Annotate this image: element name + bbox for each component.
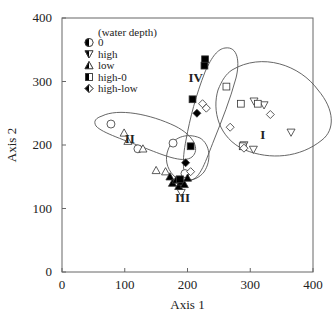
triangle-up-data-point: [152, 166, 160, 173]
triangle-down-data-point: [287, 129, 295, 136]
y-axis-title: Axis 2: [4, 128, 19, 162]
diamond-data-point: [226, 123, 234, 131]
legend-label: 0: [98, 36, 104, 48]
legend-item: high-low: [85, 82, 138, 94]
legend-label: high-low: [98, 82, 138, 94]
square-data-point: [177, 176, 184, 183]
legend-title: (water depth): [98, 26, 157, 39]
group-label-II: II: [125, 131, 135, 146]
x-tick-label: 200: [178, 277, 198, 292]
legend-item: low: [85, 59, 115, 71]
square-data-point: [201, 62, 208, 69]
circle-data-point: [169, 139, 177, 147]
legend-label: high-0: [98, 71, 127, 83]
x-axis-title: Axis 1: [170, 297, 204, 312]
x-tick-label: 300: [241, 277, 261, 292]
circle-data-point: [107, 120, 115, 128]
group-label-IV: IV: [188, 70, 203, 85]
diamond-data-point: [182, 159, 190, 167]
square-data-point: [202, 56, 209, 63]
square-data-point: [187, 143, 194, 150]
y-tick-label: 400: [33, 10, 53, 25]
y-tick-label: 300: [33, 74, 53, 89]
diamond-data-point: [266, 111, 274, 119]
y-tick-label: 0: [46, 264, 53, 279]
group-I-outline: [216, 62, 331, 156]
legend-label: low: [98, 59, 115, 71]
square-data-point: [254, 100, 261, 107]
diamond-data-point: [193, 109, 201, 117]
y-tick-label: 200: [33, 137, 53, 152]
x-tick-label: 400: [303, 277, 323, 292]
legend-item: 0: [85, 36, 104, 48]
legend-label: high: [98, 48, 118, 60]
square-data-point: [237, 100, 244, 107]
legend-item: high: [85, 48, 118, 60]
y-tick-label: 100: [33, 201, 53, 216]
square-data-point: [223, 83, 230, 90]
square-data-point: [189, 96, 196, 103]
group-label-III: III: [175, 190, 190, 205]
x-tick-label: 100: [115, 277, 135, 292]
x-tick-label: 0: [59, 277, 66, 292]
legend-item: high-0: [86, 71, 128, 83]
scatter-chart: 01002003004000100200300400Axis 1Axis 2 (…: [0, 0, 333, 323]
group-label-I: I: [260, 127, 265, 142]
group-IV-outline: [183, 48, 237, 180]
